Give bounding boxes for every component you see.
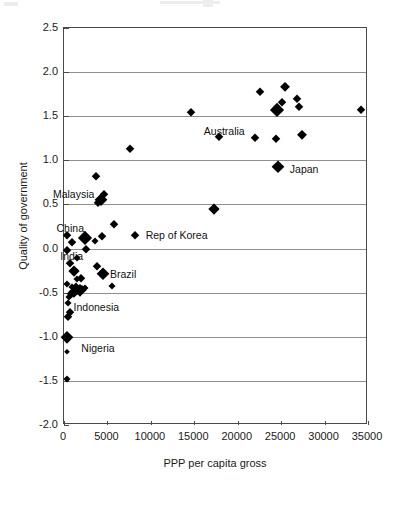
x-tick-label: 20000 — [221, 430, 252, 442]
x-tick-label: 5000 — [94, 430, 118, 442]
x-tick-mark — [325, 421, 326, 425]
y-tick-label: -2.0 — [39, 418, 58, 430]
data-point — [68, 238, 76, 246]
y-tick-mark — [64, 28, 69, 29]
gridline — [64, 249, 366, 250]
point-annotation: Rep of Korea — [146, 229, 208, 241]
x-tick-label: 30000 — [308, 430, 339, 442]
x-axis-title: PPP per capita gross — [63, 457, 367, 469]
x-tick-mark — [281, 421, 282, 425]
gridline — [64, 381, 366, 382]
point-annotation: Indonesia — [74, 301, 120, 313]
point-annotation: Japan — [290, 163, 319, 175]
data-point — [61, 331, 73, 343]
point-annotation: Australia — [204, 125, 245, 137]
x-tick-label: 0 — [60, 430, 66, 442]
x-tick-mark — [368, 421, 369, 425]
y-tick-label: -1.5 — [39, 374, 58, 386]
x-tick-label: 10000 — [135, 430, 166, 442]
y-tick-mark — [64, 116, 69, 117]
data-point — [92, 237, 99, 244]
y-axis-title: Quality of government — [17, 116, 29, 316]
plot-area: AustraliaJapanMalaysiaChinaRep of KoreaI… — [63, 27, 367, 424]
y-tick-label: 0.0 — [43, 242, 58, 254]
data-point — [96, 268, 109, 281]
point-annotation: Malaysia — [53, 188, 94, 200]
y-tick-label: 2.0 — [43, 65, 58, 77]
point-annotation: India — [60, 250, 83, 262]
point-annotation: China — [57, 222, 84, 234]
data-point — [92, 172, 100, 180]
y-tick-label: 1.5 — [43, 109, 58, 121]
y-tick-mark — [64, 425, 69, 426]
gridline — [64, 116, 366, 117]
data-point — [187, 108, 195, 116]
x-tick-mark — [107, 421, 108, 425]
x-tick-label: 15000 — [178, 430, 209, 442]
data-point — [110, 220, 118, 228]
gridline — [64, 337, 366, 338]
y-tick-mark — [64, 160, 69, 161]
y-tick-label: 2.5 — [43, 21, 58, 33]
gridline — [64, 160, 366, 161]
y-tick-label: -0.5 — [39, 286, 58, 298]
data-point — [294, 103, 303, 112]
scan-artifact — [4, 2, 18, 6]
x-tick-mark — [238, 421, 239, 425]
data-point — [251, 134, 260, 143]
y-tick-label: 1.0 — [43, 153, 58, 165]
data-point — [280, 82, 290, 92]
point-annotation: Nigeria — [81, 342, 114, 354]
y-tick-mark — [64, 72, 69, 73]
y-tick-label: -1.0 — [39, 330, 58, 342]
data-point — [69, 265, 80, 276]
data-point — [271, 161, 284, 174]
x-tick-label: 35000 — [352, 430, 383, 442]
data-point — [64, 300, 71, 307]
y-tick-mark — [64, 204, 69, 205]
data-point — [125, 144, 134, 153]
data-point — [98, 232, 106, 240]
data-point — [292, 94, 301, 103]
x-tick-mark — [151, 421, 152, 425]
x-tick-mark — [64, 421, 65, 425]
data-point — [256, 88, 265, 97]
point-annotation: Brazil — [110, 268, 136, 280]
scan-artifact — [203, 0, 213, 7]
data-point — [271, 135, 280, 144]
x-tick-mark — [194, 421, 195, 425]
gridline — [64, 293, 366, 294]
data-point — [64, 349, 70, 355]
x-tick-label: 25000 — [265, 430, 296, 442]
x-axis-tick-labels: 05000100001500020000250003000035000 — [63, 430, 367, 446]
data-point — [131, 231, 139, 239]
data-point — [297, 130, 307, 140]
data-point — [356, 105, 365, 114]
data-point — [108, 283, 115, 290]
scatter-chart-page: -2.0-1.5-1.0-0.50.00.51.01.52.02.5 Austr… — [0, 0, 396, 506]
gridline — [64, 72, 366, 73]
